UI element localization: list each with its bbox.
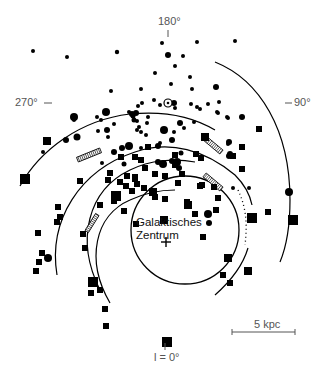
square-marker — [239, 166, 245, 172]
circle-marker — [158, 103, 162, 107]
circle-marker — [95, 115, 99, 119]
circle-marker — [111, 149, 117, 155]
square-marker — [198, 155, 204, 161]
square-marker — [20, 174, 30, 184]
circle-marker — [140, 101, 144, 105]
circle-marker — [153, 71, 157, 75]
square-marker — [36, 259, 42, 265]
square-marker — [199, 182, 205, 188]
square-marker — [201, 133, 209, 141]
square-marker — [132, 154, 138, 160]
circle-marker — [204, 210, 212, 218]
circle-marker — [189, 102, 193, 106]
circle-marker — [172, 130, 176, 134]
square-marker — [134, 181, 140, 187]
circle-marker — [155, 143, 161, 149]
circle-marker — [179, 151, 184, 156]
circle-marker — [206, 102, 210, 106]
circle-marker — [188, 75, 192, 79]
circle-marker — [190, 87, 194, 91]
circle-marker — [144, 133, 148, 137]
circle-marker — [65, 55, 69, 59]
square-marker — [97, 287, 103, 293]
center-label-line1: Galaktisches — [136, 216, 202, 229]
spiral-arm-1 — [215, 62, 290, 262]
circle-marker — [31, 49, 35, 53]
spiral-arms — [20, 62, 290, 303]
circle-marker — [155, 159, 161, 165]
square-marker — [184, 199, 190, 205]
circle-marker — [182, 126, 186, 130]
square-marker — [152, 194, 158, 200]
square-marker — [138, 157, 144, 163]
square-marker — [39, 250, 45, 256]
hatched-bar — [76, 148, 101, 162]
circle-marker — [173, 106, 177, 110]
circle-marker — [100, 161, 104, 165]
square-marker — [43, 137, 51, 145]
circle-marker — [226, 142, 230, 146]
circle-marker — [129, 111, 135, 117]
circle-marker — [225, 115, 229, 119]
hatched-bar — [85, 213, 99, 232]
circle-marker — [231, 186, 235, 190]
circle-marker — [102, 108, 110, 116]
circle-marker — [72, 118, 76, 122]
square-marker — [123, 183, 129, 189]
square-marker — [224, 254, 232, 262]
square-marker — [118, 154, 124, 160]
square-marker — [124, 173, 130, 179]
square-marker — [88, 277, 98, 287]
square-marker — [97, 202, 103, 208]
scale-bar-label: 5 kpc — [254, 318, 280, 330]
circle-marker — [136, 104, 140, 108]
circle-marker — [247, 186, 251, 190]
circle-marker — [112, 122, 116, 126]
circle-marker — [217, 100, 221, 104]
circle-marker — [99, 118, 103, 122]
circle-marker — [115, 50, 119, 54]
circle-marker — [160, 126, 168, 134]
square-marker — [211, 184, 217, 190]
square-marker — [103, 323, 109, 329]
circle-marker — [177, 120, 183, 126]
galactic-center-label: Galaktisches Zentrum — [136, 216, 202, 242]
circle-marker — [63, 137, 69, 143]
circle-marker — [285, 188, 293, 196]
circle-marker — [109, 89, 113, 93]
square-marker — [142, 165, 148, 171]
square-marker — [152, 171, 158, 177]
square-marker — [227, 280, 233, 286]
square-marker — [88, 290, 94, 296]
label-180: 180° — [158, 15, 181, 27]
square-marker — [230, 153, 236, 159]
square-marker — [105, 177, 111, 183]
circle-marker — [165, 52, 171, 58]
square-marker — [265, 209, 271, 215]
circle-marker — [74, 134, 81, 141]
square-marker — [121, 208, 127, 214]
circle-marker — [139, 146, 143, 150]
circle-marker — [96, 129, 100, 133]
circle-marker — [181, 54, 185, 58]
square-marker — [162, 337, 172, 347]
square-marker — [107, 170, 113, 176]
square-marker — [129, 188, 135, 194]
label-0: l = 0° — [154, 351, 180, 363]
circle-marker — [239, 114, 245, 120]
square-marker — [132, 174, 138, 180]
circle-marker — [195, 105, 199, 109]
square-marker — [55, 204, 61, 210]
square-marker — [145, 144, 151, 150]
circle-marker — [169, 137, 175, 143]
square-marker — [213, 207, 219, 213]
square-marker — [175, 180, 181, 186]
circle-marker — [119, 145, 125, 151]
circle-marker — [125, 142, 133, 150]
square-marker — [179, 171, 185, 177]
circle-marker — [213, 84, 219, 90]
square-marker — [288, 215, 298, 225]
square-marker — [35, 230, 41, 236]
circle-marker — [104, 127, 110, 133]
square-marker — [247, 213, 257, 223]
